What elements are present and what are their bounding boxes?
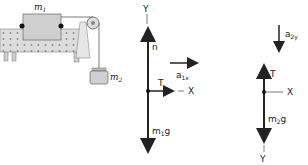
air-track-apparatus: m1 m2 (0, 2, 123, 84)
track-leg (4, 52, 8, 61)
weight-label: m2g (268, 114, 286, 125)
diagram-canvas: m1 m2 Y n m1g T X a1x a2y T m2g X (0, 0, 308, 165)
free-body-diagram-m2: a2y T m2g X Y (259, 25, 298, 164)
acceleration-label: a1x (176, 70, 189, 81)
bumper (20, 24, 25, 29)
track-leg (12, 52, 16, 61)
x-axis-label: X (287, 87, 293, 97)
m2-label: m2 (110, 72, 123, 83)
y-axis-label: Y (142, 4, 149, 14)
tension-label: T (157, 78, 164, 88)
origin-dot (146, 89, 150, 93)
y-axis-label: Y (259, 154, 266, 164)
normal-force-label: n (152, 42, 158, 52)
acceleration-label: a2y (285, 29, 298, 41)
origin-dot (262, 90, 266, 94)
pulley-axle (91, 21, 95, 25)
hanging-mass-m2 (90, 71, 108, 84)
bumper (59, 24, 64, 29)
hook (92, 68, 106, 71)
free-body-diagram-m1: Y n m1g T X a1x (142, 4, 196, 150)
weight-label: m1g (152, 126, 170, 137)
x-axis-label: X (188, 86, 194, 96)
m1-label: m1 (34, 2, 46, 13)
block-m1 (23, 14, 61, 40)
pulley-stand (76, 22, 90, 58)
tension-label: T (269, 69, 276, 79)
